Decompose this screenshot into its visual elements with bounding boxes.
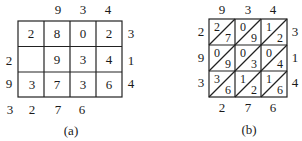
b-bottom-label: 7 xyxy=(241,101,255,114)
a-right-label: 4 xyxy=(124,77,138,90)
b-cell-upper: 1 xyxy=(264,21,274,33)
a-bottom-label: 7 xyxy=(51,103,65,116)
caption-a: (a) xyxy=(56,124,86,137)
b-top-label: 4 xyxy=(266,3,280,16)
a-cell: 3 xyxy=(25,78,39,91)
b-cell-upper: 3 xyxy=(212,73,222,85)
b-cell-lower: 9 xyxy=(249,32,259,44)
b-cell-lower: 7 xyxy=(223,32,233,44)
b-right-label: 1 xyxy=(288,51,302,64)
a-bottom-label: 3 xyxy=(3,103,17,116)
a-left-label: 9 xyxy=(2,77,16,90)
b-left-label: 3 xyxy=(194,76,208,89)
b-cell-lower: 9 xyxy=(223,58,233,70)
b-right-label: 4 xyxy=(288,76,302,89)
a-bottom-label: 6 xyxy=(75,103,89,116)
lattice-multiplication-figure: 9 3 4 3 1 4 2 9 3 2 7 6 2 8 0 2 9 3 4 3 … xyxy=(0,0,302,141)
a-cell: 0 xyxy=(76,27,90,40)
b-bottom-label: 2 xyxy=(215,101,229,114)
b-cell-upper: 1 xyxy=(238,73,248,85)
b-cell-lower: 3 xyxy=(249,58,259,70)
a-cell: 2 xyxy=(102,27,116,40)
a-cell: 8 xyxy=(50,27,64,40)
b-top-label: 3 xyxy=(241,3,255,16)
a-cell: 3 xyxy=(76,78,90,91)
b-cell-lower: 2 xyxy=(275,32,285,44)
b-top-label: 9 xyxy=(215,3,229,16)
a-top-label: 4 xyxy=(101,3,115,16)
caption-b: (b) xyxy=(234,123,264,136)
b-cell-lower: 6 xyxy=(223,84,233,96)
a-cell: 9 xyxy=(50,53,64,66)
a-bottom-label: 2 xyxy=(25,103,39,116)
b-cell-upper: 1 xyxy=(264,73,274,85)
a-right-label: 3 xyxy=(124,27,138,40)
b-bottom-label: 6 xyxy=(266,101,280,114)
a-cell: 2 xyxy=(24,27,38,40)
a-left-label: 2 xyxy=(2,54,16,67)
a-right-label: 1 xyxy=(124,54,138,67)
a-cell: 4 xyxy=(102,53,116,66)
b-cell-upper: 0 xyxy=(238,47,248,59)
b-right-label: 3 xyxy=(288,25,302,38)
a-cell: 3 xyxy=(76,53,90,66)
b-cell-upper: 2 xyxy=(212,21,222,33)
b-cell-upper: 0 xyxy=(212,47,222,59)
b-cell-lower: 4 xyxy=(275,58,285,70)
a-cell: 6 xyxy=(102,78,116,91)
b-cell-lower: 2 xyxy=(249,84,259,96)
b-cell-upper: 0 xyxy=(238,21,248,33)
b-cell-upper: 0 xyxy=(264,47,274,59)
a-top-label: 9 xyxy=(51,3,65,16)
b-left-label: 9 xyxy=(194,51,208,64)
a-top-label: 3 xyxy=(76,3,90,16)
a-cell: 7 xyxy=(50,78,64,91)
b-left-label: 2 xyxy=(194,25,208,38)
b-cell-lower: 6 xyxy=(275,84,285,96)
